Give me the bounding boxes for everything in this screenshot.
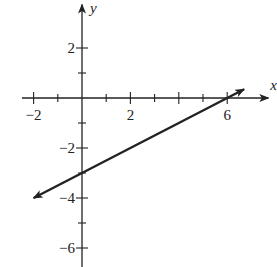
x-tick-label: −2 — [26, 107, 42, 123]
y-tick-label: −6 — [59, 240, 75, 256]
axes — [22, 5, 268, 267]
x-tick-label: 2 — [127, 107, 135, 123]
tick-labels: xy−2262−2−4−6 — [26, 0, 277, 256]
x-axis-label: x — [269, 77, 277, 93]
coordinate-plane: xy−2262−2−4−6 — [0, 0, 277, 267]
y-tick-label: −2 — [59, 140, 75, 156]
y-axis-label: y — [88, 0, 97, 16]
x-tick-label: 6 — [223, 107, 231, 123]
y-tick-label: 2 — [68, 40, 76, 56]
graph-svg: xy−2262−2−4−6 — [0, 0, 277, 267]
y-tick-label: −4 — [59, 190, 75, 206]
